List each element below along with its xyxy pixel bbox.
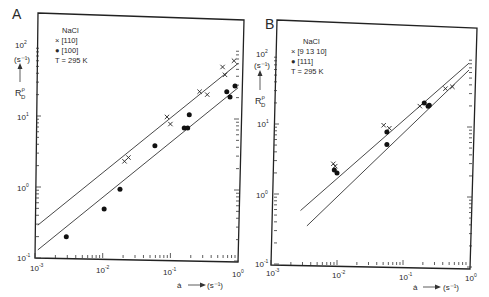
- data-point-cross: [205, 92, 209, 96]
- svg-text:10-2: 10-2: [96, 264, 110, 275]
- svg-text:● [100]: ● [100]: [55, 46, 78, 55]
- svg-text:ȧ: ȧ: [413, 283, 418, 292]
- data-point-dot: [102, 206, 107, 211]
- arrow-right-icon: [200, 283, 206, 288]
- data-point-dot: [224, 89, 229, 94]
- svg-text:10-3: 10-3: [30, 262, 44, 273]
- svg-text:× [110]: × [110]: [55, 36, 78, 45]
- svg-text:10-1: 10-1: [399, 271, 413, 282]
- data-point-dot: [185, 125, 190, 130]
- data-point-dot: [384, 142, 389, 147]
- svg-text:RρD: RρD: [15, 86, 26, 100]
- svg-text:× [9 13 10]: × [9 13 10]: [291, 47, 327, 56]
- svg-text:T = 295 K: T = 295 K: [55, 56, 88, 65]
- data-point-cross: [232, 59, 236, 63]
- data-point-cross: [443, 86, 447, 90]
- svg-text:100: 100: [232, 268, 244, 279]
- data-point-dot: [117, 187, 122, 192]
- panel-b: B 102 101 100 10-1 10-3 10-2 10-1 100 (s…: [254, 16, 477, 292]
- svg-text:100: 100: [465, 272, 477, 283]
- panel-b-ticks: [271, 57, 472, 267]
- panel-b-x-tick-labels: 10-3 10-2 10-1 100: [266, 267, 477, 283]
- svg-text:10-2: 10-2: [332, 269, 346, 280]
- svg-text:(s⁻¹): (s⁻¹): [254, 61, 270, 70]
- svg-text:100: 100: [256, 189, 268, 200]
- panel-a-x-tick-labels: 10-3 10-2 10-1 100: [30, 262, 244, 279]
- panel-a: A 102 101 100 10-1 10-3 10-2 10-1 100 (s…: [12, 6, 244, 290]
- svg-text:T = 295 K: T = 295 K: [291, 67, 324, 76]
- svg-text:(s⁻¹): (s⁻¹): [443, 283, 459, 292]
- data-point-cross: [418, 104, 422, 108]
- data-point-cross: [220, 65, 224, 69]
- arrow-up-icon: [258, 70, 263, 76]
- fit-line: [38, 63, 238, 225]
- data-point-cross: [168, 122, 172, 126]
- panel-b-letter: B: [265, 16, 274, 32]
- data-point-dot: [233, 83, 238, 88]
- panel-b-y-tick-labels: 102 101 100 10-1: [255, 48, 269, 269]
- data-point-cross: [450, 85, 454, 89]
- data-point-dot: [335, 170, 340, 175]
- panel-b-y-axis-label: (s⁻¹) RρD: [254, 61, 270, 108]
- svg-text:(s⁻¹): (s⁻¹): [207, 281, 223, 290]
- data-point-dot: [187, 112, 192, 117]
- svg-text:ȧ: ȧ: [177, 281, 182, 290]
- panel-a-ticks: [35, 48, 239, 261]
- panel-a-legend: NaCl × [110] ● [100] T = 295 K: [55, 26, 88, 65]
- data-point-cross: [126, 155, 130, 159]
- svg-text:101: 101: [257, 118, 269, 129]
- data-point-dot: [384, 129, 389, 134]
- svg-text:10-1: 10-1: [255, 258, 269, 269]
- svg-text:(s⁻¹): (s⁻¹): [14, 55, 30, 64]
- svg-text:● [111]: ● [111]: [291, 57, 313, 66]
- panel-b-x-axis-label: ȧ (s⁻¹): [413, 283, 459, 292]
- data-point-dot: [152, 143, 157, 148]
- svg-text:102: 102: [256, 48, 268, 59]
- figure: A 102 101 100 10-1 10-3 10-2 10-1 100 (s…: [0, 0, 489, 297]
- fit-line: [301, 63, 469, 210]
- svg-text:10-1: 10-1: [17, 252, 31, 263]
- panel-a-y-axis-label: (s⁻¹) RρD: [14, 55, 30, 100]
- fit-line: [38, 88, 238, 250]
- svg-text:102: 102: [15, 39, 27, 50]
- panel-b-legend: NaCl × [9 13 10] ● [111] T = 295 K: [291, 37, 327, 76]
- svg-text:NaCl: NaCl: [303, 37, 320, 46]
- data-point-dot: [427, 103, 432, 108]
- svg-text:NaCl: NaCl: [62, 26, 79, 35]
- data-point-dot: [228, 95, 233, 100]
- data-point-dot: [422, 100, 427, 105]
- svg-text:RρD: RρD: [255, 94, 266, 108]
- data-point-dot: [64, 234, 69, 239]
- panel-a-x-axis-label: ȧ (s⁻¹): [177, 281, 223, 290]
- panel-a-letter: A: [12, 6, 22, 22]
- data-point-cross: [165, 115, 169, 119]
- fit-line: [307, 70, 469, 226]
- panel-a-y-tick-labels: 102 101 100 10-1: [15, 39, 31, 263]
- arrow-right-icon: [435, 285, 441, 290]
- data-point-cross: [122, 159, 126, 163]
- svg-text:10-3: 10-3: [266, 267, 280, 278]
- svg-text:101: 101: [17, 111, 29, 122]
- svg-text:10-1: 10-1: [163, 266, 177, 277]
- data-point-cross: [197, 89, 201, 93]
- panel-a-plot-area: [38, 59, 238, 250]
- panel-b-plot-area: [301, 63, 469, 226]
- data-point-cross: [381, 123, 385, 127]
- svg-text:100: 100: [17, 182, 29, 193]
